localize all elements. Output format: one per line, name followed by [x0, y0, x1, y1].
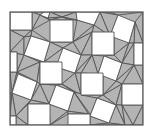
square-tile — [10, 12, 32, 30]
square-tile — [10, 116, 16, 125]
square-tile — [134, 43, 143, 65]
square-tile — [122, 84, 143, 105]
square-tile — [92, 32, 114, 55]
square-tile — [50, 20, 73, 42]
square-tile — [40, 62, 62, 84]
snub-square-tiling — [0, 0, 154, 137]
square-tile — [28, 104, 50, 125]
square-tile — [10, 52, 17, 72]
square-tile — [81, 73, 103, 95]
square-tile — [68, 114, 90, 125]
